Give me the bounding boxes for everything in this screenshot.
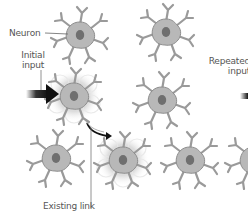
- initial-input-label: Initial input: [16, 50, 50, 70]
- neuron-leader-line: [45, 33, 68, 34]
- neuron-n4: [133, 72, 190, 129]
- neuron-n5: [27, 130, 84, 187]
- existing-link-label: Existing link: [43, 201, 95, 211]
- neuron-n7: [161, 132, 218, 189]
- initial-input-label-line2: input: [16, 60, 50, 70]
- repeated-input-label: Repeated input: [205, 56, 248, 76]
- repeated-input-label-line1: Repeated: [205, 56, 248, 66]
- repeated-input-arrow-icon: [240, 93, 248, 99]
- neuron-label: Neuron: [9, 28, 41, 38]
- neuron-n1: [51, 7, 108, 64]
- neuron-n8-partial: [225, 132, 248, 189]
- repeated-input-label-line2: input: [205, 66, 248, 76]
- neuron-n2: [137, 4, 194, 61]
- initial-input-label-line1: Initial: [16, 50, 50, 60]
